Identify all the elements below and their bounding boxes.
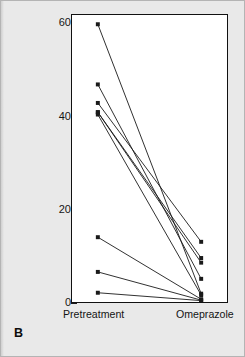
x-axis-label-omeprazole: Omeprazole <box>176 308 234 320</box>
y-tick-label: 0 <box>45 297 71 308</box>
data-point-pretreatment <box>96 101 100 105</box>
y-tick-60: 60 <box>37 23 71 24</box>
y-tick-label: 20 <box>45 204 71 215</box>
y-tick-20: 20 <box>37 210 71 211</box>
connector-line <box>98 84 201 278</box>
series-subject-3 <box>96 101 203 244</box>
y-tick-label: 40 <box>45 111 71 122</box>
data-point-pretreatment <box>96 235 100 239</box>
data-point-omeprazole <box>199 240 203 244</box>
y-tick-mark <box>71 303 77 304</box>
data-point-omeprazole <box>199 256 203 260</box>
y-tick-label: 60 <box>45 17 71 28</box>
data-point-omeprazole <box>199 277 203 281</box>
connector-line <box>98 272 201 300</box>
connector-line <box>98 112 201 262</box>
connector-line <box>98 293 201 301</box>
data-point-pretreatment <box>96 22 100 26</box>
connector-line <box>98 24 201 293</box>
series-subject-6 <box>96 113 203 298</box>
y-tick-0: 0 <box>37 303 71 304</box>
data-point-omeprazole <box>199 261 203 265</box>
data-point-pretreatment <box>96 113 100 117</box>
x-axis-label-pretreatment: Pretreatment <box>63 308 124 320</box>
series-subject-1 <box>96 22 203 295</box>
series-subject-5 <box>96 110 203 264</box>
figure-panel: Bilirubin absorbance ≥ 0.14, % total tim… <box>0 0 245 357</box>
plot-area <box>71 14 228 303</box>
data-point-omeprazole <box>199 299 203 302</box>
data-point-pretreatment <box>96 291 100 295</box>
series-subject-8 <box>96 270 203 302</box>
data-point-omeprazole <box>199 293 203 297</box>
y-tick-40: 40 <box>37 117 71 118</box>
connector-line <box>98 103 201 242</box>
series-subject-7 <box>96 235 203 301</box>
panel-label: B <box>14 326 23 340</box>
series-subject-2 <box>96 82 203 280</box>
data-point-pretreatment <box>96 82 100 86</box>
paired-slope-chart <box>72 15 227 302</box>
data-point-pretreatment <box>96 270 100 274</box>
